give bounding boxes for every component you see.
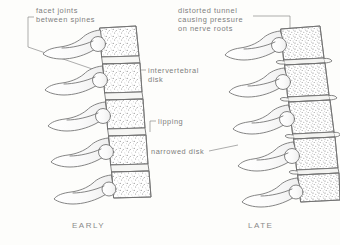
vertebra-late-2 [229, 63, 329, 97]
vertebra-early-2 [45, 63, 142, 95]
label-intervertebral-disk: intervertebral disk [148, 66, 199, 84]
leader-lipping [150, 121, 156, 132]
spine-early [43, 26, 151, 204]
label-lipping: lipping [158, 117, 183, 126]
vertebra-early-3 [48, 99, 145, 131]
label-narrowed-disk: narrowed disk [151, 147, 204, 156]
spine-late [225, 26, 340, 207]
caption-early: EARLY [72, 221, 105, 230]
label-distorted-tunnel: distorted tunnel causing pressure on ner… [178, 6, 243, 34]
vertebra-early-4 [51, 135, 148, 167]
vertebra-late-5 [242, 173, 340, 207]
label-facet-joints: facet joints between spines [36, 6, 95, 24]
vertebra-late-4 [238, 137, 338, 171]
vertebra-early-1 [43, 26, 139, 59]
leader-narrowed-disk [209, 145, 238, 151]
caption-late: LATE [248, 221, 273, 230]
vertebra-early-5 [54, 171, 151, 204]
vertebra-late-3 [233, 100, 334, 134]
